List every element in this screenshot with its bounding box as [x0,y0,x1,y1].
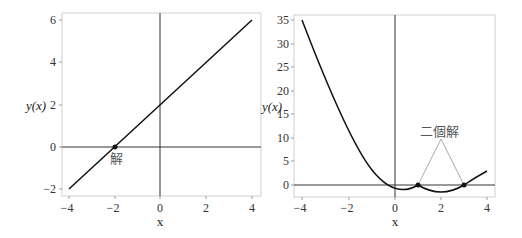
right-xtick: 2 [438,201,444,215]
left-ytick: 4 [50,55,56,69]
left-ytick: 0 [50,140,56,154]
left-xtick: 0 [157,201,163,215]
left-x-label: x [157,214,164,229]
right-y-label: y(x) [260,99,282,114]
right-chart: 二個解 35 30 25 20 15 10 5 0 −4 −2 [260,13,495,229]
left-chart: 解 6 4 2 0 −2 −4 −2 0 2 4 x y(x) [24,13,261,229]
left-ytick: 2 [50,98,56,112]
right-ytick: 25 [277,60,289,74]
right-annotation: 二個解 [420,124,459,139]
left-annotation: 解 [110,151,123,166]
right-ytick: 30 [277,37,289,51]
figure: 解 6 4 2 0 −2 −4 −2 0 2 4 x y(x) [0,0,522,238]
right-ytick: 0 [283,178,289,192]
right-root-point-2 [462,183,467,188]
right-x-ticks: −4 −2 0 2 4 [294,197,490,215]
right-ytick: 10 [277,131,289,145]
right-x-label: x [392,214,399,229]
right-xtick: 4 [484,201,490,215]
right-ytick: 35 [277,13,289,27]
left-root-point [113,145,118,150]
left-y-label: y(x) [24,98,46,113]
left-xtick: −4 [61,201,74,215]
left-xtick: 4 [249,201,255,215]
right-root-point-1 [416,183,421,188]
left-xtick: −2 [107,201,120,215]
right-ytick: 20 [277,84,289,98]
right-ytick: 5 [283,154,289,168]
left-ytick: 6 [50,13,56,27]
left-ytick: −2 [43,182,56,196]
left-xtick: 2 [203,201,209,215]
right-xtick: 0 [392,201,398,215]
left-x-ticks: −4 −2 0 2 4 [61,196,255,215]
right-xtick: −4 [294,201,307,215]
right-xtick: −2 [341,201,354,215]
